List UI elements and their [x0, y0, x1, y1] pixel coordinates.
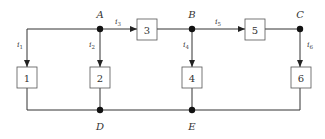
element-3: 3 [137, 19, 157, 40]
node-A [97, 26, 103, 32]
element-1: 1 [17, 67, 37, 88]
element-label: 6 [298, 73, 304, 84]
node-label-D: D [95, 121, 104, 132]
node-B [189, 26, 195, 32]
arrow-down-icon [297, 60, 303, 67]
node-label-A: A [95, 9, 103, 20]
arrow-down-icon [189, 60, 195, 67]
element-2: 2 [90, 67, 110, 88]
element-label: 2 [97, 73, 103, 84]
element-label: 5 [252, 25, 258, 36]
element-4: 4 [182, 67, 202, 88]
element-label: 1 [24, 73, 30, 84]
node-E [189, 107, 195, 113]
current-label-i2: i2 [89, 40, 95, 50]
circuit-diagram: 1 2 3 4 5 6 A B C D E i1 i2 i3 i4 i5 i6 [0, 0, 325, 139]
arrow-down-icon [97, 60, 103, 67]
arrow-right-icon [130, 26, 137, 32]
current-label-i4: i4 [183, 40, 190, 50]
element-6: 6 [291, 67, 311, 88]
node-C [297, 26, 303, 32]
element-label: 3 [144, 25, 150, 36]
node-label-B: B [187, 9, 195, 20]
current-label-i5: i5 [215, 17, 222, 27]
current-label-i3: i3 [115, 17, 122, 27]
node-D [97, 107, 103, 113]
arrow-down-icon [24, 60, 30, 67]
current-label-i1: i1 [17, 40, 23, 50]
arrow-right-icon [238, 26, 245, 32]
element-5: 5 [245, 19, 265, 40]
node-label-E: E [187, 121, 196, 132]
wires [27, 29, 300, 110]
element-label: 4 [189, 73, 195, 84]
node-label-C: C [296, 9, 304, 20]
current-label-i6: i6 [307, 40, 314, 50]
